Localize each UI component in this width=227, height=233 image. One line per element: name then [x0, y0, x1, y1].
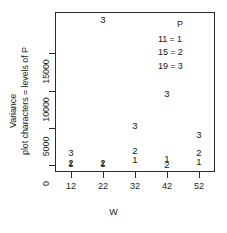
x-axis-tick	[71, 172, 72, 178]
x-axis-tick-label: 32	[120, 182, 150, 191]
data-point: 1	[96, 159, 110, 169]
legend-entry: 11 = 1	[158, 33, 200, 47]
data-point: 1	[128, 155, 142, 165]
x-axis-tick	[199, 172, 200, 178]
data-point: 3	[128, 121, 142, 131]
legend-entry: 19 = 3	[158, 60, 200, 74]
chart-screenshot: 050001000015000 1222324252 3333232111212…	[0, 0, 227, 233]
data-point: 3	[96, 15, 110, 25]
x-axis-tick	[103, 172, 104, 178]
data-point: 3	[160, 89, 174, 99]
x-axis-tick-label: 42	[152, 182, 182, 191]
y-axis-title: Variance	[9, 94, 18, 128]
y-axis-subtitle: plot characters = levels of P	[21, 47, 30, 155]
data-point: 3	[64, 148, 78, 158]
y-axis-tick-label: 15000	[42, 54, 51, 90]
legend: P 11 = 115 = 219 = 3	[158, 18, 200, 73]
y-axis-tick-label: 0	[42, 166, 51, 202]
legend-entry: 15 = 2	[158, 46, 200, 60]
y-axis-tick-label: 10000	[42, 91, 51, 127]
legend-title: P	[160, 18, 200, 32]
x-axis-tick	[135, 172, 136, 178]
legend-entries: 11 = 115 = 219 = 3	[158, 33, 200, 74]
data-point: 1	[64, 159, 78, 169]
x-axis-tick-label: 12	[56, 182, 86, 191]
y-axis-tick-label: 5000	[42, 128, 51, 164]
x-axis-tick-label: 22	[88, 182, 118, 191]
data-point: 1	[192, 157, 206, 167]
x-axis-title: W	[0, 208, 227, 217]
x-axis-tick	[167, 172, 168, 178]
data-point: 2	[160, 160, 174, 170]
x-axis-tick-label: 52	[184, 182, 214, 191]
data-point: 3	[192, 130, 206, 140]
